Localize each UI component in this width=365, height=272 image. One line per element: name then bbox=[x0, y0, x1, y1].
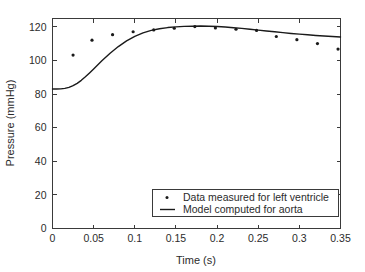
y-tick-label: 100 bbox=[29, 54, 47, 66]
data-point bbox=[111, 33, 114, 36]
x-tick-label: 0.2 bbox=[210, 232, 225, 244]
y-tick-label: 0 bbox=[41, 222, 47, 234]
data-point bbox=[214, 26, 217, 29]
legend-label-0: Data measured for left ventricle bbox=[183, 191, 329, 203]
y-tick-label: 40 bbox=[35, 155, 47, 167]
x-tick-label: 0.1 bbox=[127, 232, 142, 244]
x-tick-label: 0 bbox=[50, 232, 56, 244]
y-tick-label: 80 bbox=[35, 88, 47, 100]
legend-marker-point bbox=[166, 196, 169, 199]
x-tick-label: 0.35 bbox=[330, 232, 351, 244]
data-point bbox=[295, 38, 298, 41]
chart-legend: Data measured for left ventricle Model c… bbox=[153, 190, 339, 217]
y-tick-label: 120 bbox=[29, 21, 47, 33]
data-point bbox=[255, 29, 258, 32]
data-point bbox=[152, 28, 155, 31]
data-point bbox=[71, 54, 74, 57]
data-point bbox=[173, 27, 176, 30]
y-tick-label: 60 bbox=[35, 121, 47, 133]
x-tick-label: 0.3 bbox=[292, 232, 307, 244]
x-axis-title: Time (s) bbox=[176, 254, 216, 266]
chart-figure: 00.050.10.150.20.250.30.35 0204060801001… bbox=[0, 0, 365, 272]
x-tick-label: 0.05 bbox=[83, 232, 104, 244]
x-tick-label: 0.25 bbox=[248, 232, 269, 244]
data-point bbox=[234, 28, 237, 31]
pressure-time-chart: 00.050.10.150.20.250.30.35 0204060801001… bbox=[0, 0, 365, 272]
y-tick-label: 20 bbox=[35, 189, 47, 201]
y-axis-title: Pressure (mmHg) bbox=[4, 80, 16, 167]
data-point bbox=[90, 39, 93, 42]
data-point bbox=[316, 42, 319, 45]
data-point bbox=[336, 47, 339, 50]
x-tick-label: 0.15 bbox=[166, 232, 187, 244]
data-point bbox=[132, 30, 135, 33]
data-point bbox=[275, 35, 278, 38]
data-point bbox=[193, 25, 196, 28]
legend-label-1: Model computed for aorta bbox=[183, 203, 303, 215]
